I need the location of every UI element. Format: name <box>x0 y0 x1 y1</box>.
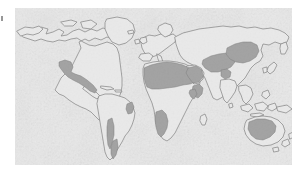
land-korea <box>263 67 267 73</box>
land-hispaniola <box>115 90 122 92</box>
figure-caption <box>0 0 1 1</box>
land-sri-lanka <box>229 103 233 108</box>
land-iberia <box>139 53 153 61</box>
land-tasmania <box>273 147 279 152</box>
figure-world-desert-map: World map with arid and desert regions s… <box>0 0 292 179</box>
world-map-panel: World map with arid and desert regions s… <box>15 8 292 165</box>
world-map-svg: World map with arid and desert regions s… <box>15 8 292 165</box>
land-ireland <box>135 39 140 44</box>
margin-mark-icon <box>1 16 3 21</box>
land-iceland <box>128 30 134 34</box>
